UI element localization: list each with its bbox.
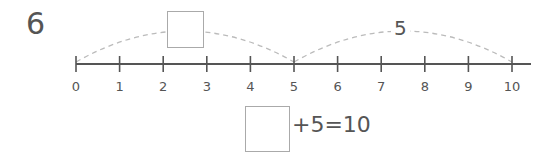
tick-label: 1: [115, 79, 123, 94]
tick-label: 7: [377, 79, 385, 94]
tick-label: 3: [203, 79, 211, 94]
tick-label: 10: [504, 79, 521, 94]
tick-label: 5: [290, 79, 298, 94]
tick-label: 8: [421, 79, 429, 94]
jump-label-5: 5: [391, 16, 410, 40]
number-line-tick-labels: 012345678910: [72, 79, 520, 94]
tick-label: 9: [464, 79, 472, 94]
tick-label: 4: [246, 79, 254, 94]
equation-text: +5=10: [292, 112, 371, 137]
equation-answer-box[interactable]: [245, 106, 290, 152]
tick-label: 2: [159, 79, 167, 94]
tick-label: 0: [72, 79, 80, 94]
jump-answer-box[interactable]: [167, 11, 204, 48]
tick-label: 6: [333, 79, 341, 94]
